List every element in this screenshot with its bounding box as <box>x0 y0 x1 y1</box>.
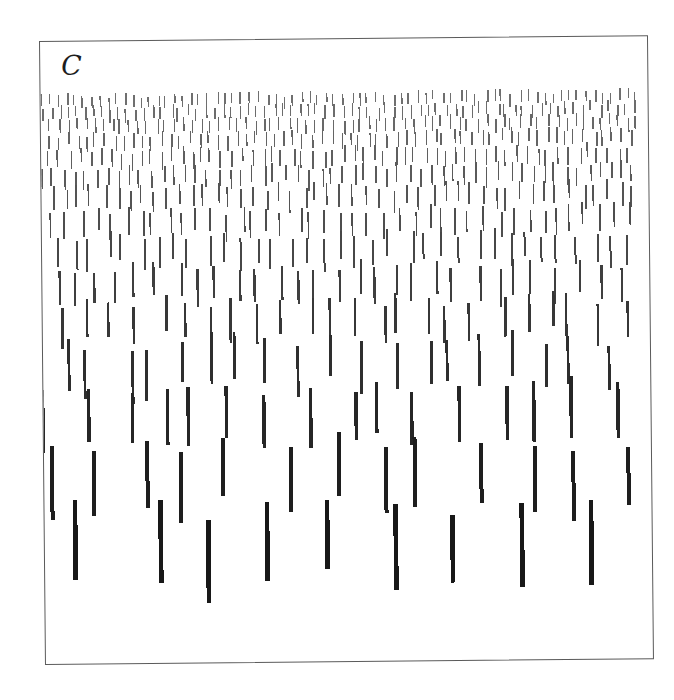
texture-gradient-field <box>40 36 653 664</box>
texture-row <box>57 226 627 274</box>
texture-row <box>40 112 635 138</box>
texture-mark <box>459 386 460 442</box>
texture-mark <box>522 503 523 587</box>
texture-mark <box>188 387 189 447</box>
figure-plate-frame: C <box>39 35 654 665</box>
texture-mark <box>452 515 453 583</box>
figure-page: C <box>0 0 674 700</box>
texture-mark <box>52 446 53 520</box>
texture-row <box>75 495 592 604</box>
texture-mark <box>481 443 482 503</box>
texture-mark <box>396 504 397 590</box>
texture-row <box>41 87 635 111</box>
texture-mark <box>573 451 574 520</box>
texture-mark <box>160 500 161 583</box>
texture-mark <box>94 451 95 517</box>
texture-row <box>42 159 631 193</box>
texture-mark <box>147 441 148 508</box>
texture-row <box>41 256 622 311</box>
texture-mark <box>339 432 340 496</box>
texture-mark <box>327 500 328 569</box>
texture-mark <box>89 389 90 442</box>
texture-mark <box>43 390 44 454</box>
texture-mark <box>311 388 312 448</box>
texture-mark <box>535 446 536 512</box>
texture-mark <box>591 500 592 585</box>
texture-mark <box>618 382 619 438</box>
texture-mark <box>264 395 265 448</box>
texture-mark <box>414 437 415 507</box>
texture-mark <box>534 381 535 442</box>
texture-mark <box>223 438 224 496</box>
texture-mark <box>181 452 182 522</box>
texture-mark <box>412 392 413 445</box>
texture-mark <box>291 447 292 512</box>
texture-mark <box>507 386 508 440</box>
texture-row <box>43 375 619 453</box>
texture-row <box>62 290 628 352</box>
texture-mark <box>571 376 572 438</box>
texture-row <box>69 329 610 405</box>
texture-mark <box>75 500 76 579</box>
texture-gradient-svg <box>40 36 653 664</box>
texture-mark <box>386 447 387 512</box>
texture-mark <box>208 520 209 603</box>
texture-mark <box>628 447 629 505</box>
texture-mark <box>267 502 268 581</box>
texture-mark <box>167 389 168 445</box>
texture-mark <box>361 341 362 394</box>
texture-row <box>52 430 629 526</box>
